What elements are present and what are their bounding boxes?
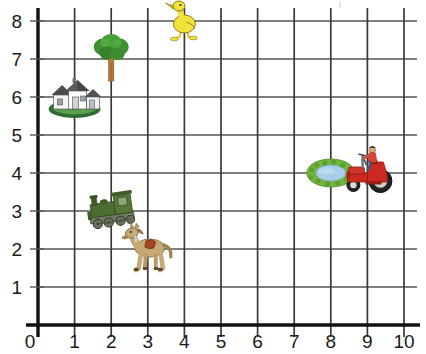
scan-artifact (339, 1, 341, 8)
x-tick-10: 10 (393, 331, 414, 352)
x-tick-5: 5 (216, 331, 227, 352)
y-tick-7: 7 (11, 49, 22, 70)
y-tick-2: 2 (11, 239, 22, 260)
y-tick-3: 3 (11, 201, 22, 222)
x-tick-8: 8 (326, 331, 337, 352)
x-tick-2: 2 (106, 331, 117, 352)
x-tick-4: 4 (179, 331, 190, 352)
y-tick-5: 5 (11, 125, 22, 146)
x-tick-0: 0 (25, 331, 36, 352)
x-tick-7: 7 (289, 331, 300, 352)
grid-canvas: 8 7 6 5 4 3 2 1 0 1 2 3 4 5 6 7 8 9 10 (0, 0, 426, 354)
x-tick-1: 1 (69, 331, 80, 352)
y-tick-4: 4 (11, 163, 22, 184)
coordinate-grid-figure: 8 7 6 5 4 3 2 1 0 1 2 3 4 5 6 7 8 9 10 (0, 0, 426, 354)
x-tick-6: 6 (252, 331, 263, 352)
x-tick-3: 3 (143, 331, 154, 352)
y-tick-8: 8 (11, 11, 22, 32)
y-tick-1: 1 (11, 277, 22, 298)
y-tick-6: 6 (11, 87, 22, 108)
x-tick-9: 9 (362, 331, 373, 352)
